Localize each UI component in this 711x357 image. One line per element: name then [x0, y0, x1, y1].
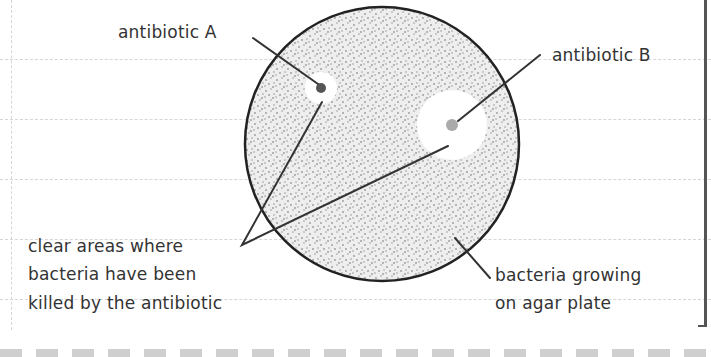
frame-border-corner	[698, 325, 707, 327]
label-clear-areas-line2: bacteria have been	[28, 261, 196, 287]
label-bacteria-line1: bacteria growing	[495, 262, 641, 288]
antibiotic-b-disc	[446, 119, 458, 131]
page-divider-dashes	[0, 349, 711, 357]
label-clear-areas-line1: clear areas where	[28, 233, 183, 259]
frame-border-right	[704, 0, 707, 327]
diagram-canvas: antibiotic A antibiotic B clear areas wh…	[0, 0, 711, 357]
label-bacteria-line2: on agar plate	[495, 290, 611, 316]
label-clear-areas-line3: killed by the antibiotic	[28, 290, 222, 316]
label-antibiotic-a: antibiotic A	[118, 19, 217, 45]
label-antibiotic-b: antibiotic B	[552, 42, 651, 68]
